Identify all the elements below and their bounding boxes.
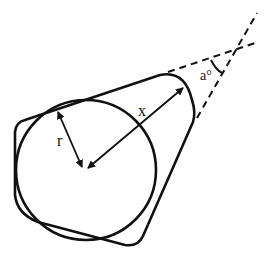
geometry-diagram: r x a° (0, 0, 269, 261)
label-x: x (138, 102, 146, 119)
distance-arrow (88, 88, 183, 168)
label-r: r (57, 132, 63, 149)
dashed-tangent-upper (168, 42, 258, 72)
label-angle: a° (200, 68, 212, 83)
dashed-tangent-lower (197, 13, 257, 118)
angle-arc (211, 60, 222, 73)
inner-circle (16, 100, 156, 240)
outer-rounded-shape (15, 74, 194, 245)
